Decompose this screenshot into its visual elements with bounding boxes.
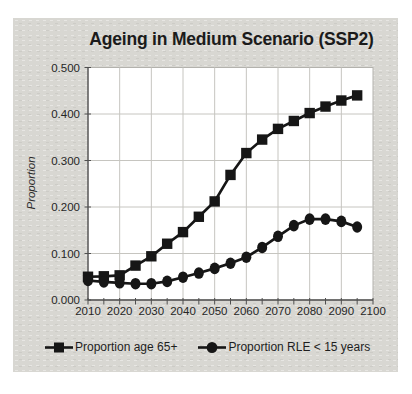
data-point-square — [146, 251, 156, 261]
y-tick-label: 0.200 — [51, 201, 80, 213]
x-tick-label: 2010 — [75, 305, 101, 317]
data-point-circle — [99, 276, 109, 288]
data-point-circle — [336, 216, 346, 228]
plot-area: 2010202020302040205020602070208020902100… — [0, 0, 412, 394]
x-tick-label: 2060 — [234, 305, 260, 317]
x-tick-label: 2040 — [170, 305, 196, 317]
data-point-square — [241, 148, 251, 158]
data-point-circle — [115, 277, 125, 289]
data-point-circle — [83, 275, 93, 287]
legend-item-rle: Proportion RLE < 15 years — [198, 340, 370, 354]
data-point-circle — [289, 220, 299, 232]
data-point-square — [209, 196, 219, 206]
data-point-square — [257, 134, 267, 144]
figure: Ageing in Medium Scenario (SSP2) Proport… — [0, 0, 412, 394]
data-point-circle — [305, 213, 315, 225]
x-tick-label: 2050 — [202, 305, 228, 317]
x-tick-label: 2100 — [360, 305, 386, 317]
data-point-square — [273, 124, 283, 134]
square-marker-icon — [45, 341, 73, 354]
y-tick-label: 0.100 — [51, 248, 80, 260]
data-point-square — [304, 108, 314, 118]
x-tick-label: 2090 — [329, 305, 355, 317]
data-point-circle — [178, 271, 188, 283]
data-point-square — [352, 90, 362, 100]
y-tick-label: 0.300 — [51, 155, 80, 167]
data-point-circle — [226, 257, 236, 269]
data-point-square — [130, 260, 140, 270]
data-point-square — [178, 227, 188, 237]
data-point-circle — [257, 242, 267, 254]
data-point-circle — [241, 251, 251, 263]
x-tick-label: 2080 — [297, 305, 323, 317]
x-tick-label: 2030 — [139, 305, 165, 317]
x-tick-label: 2020 — [107, 305, 133, 317]
data-point-circle — [146, 278, 156, 290]
data-point-circle — [321, 213, 331, 225]
data-point-square — [336, 95, 346, 105]
y-tick-label: 0.400 — [51, 108, 80, 120]
data-point-square — [289, 116, 299, 126]
legend-label-rle: Proportion RLE < 15 years — [228, 340, 370, 354]
data-point-square — [162, 239, 172, 249]
data-point-circle — [131, 278, 141, 290]
x-tick-label: 2070 — [265, 305, 291, 317]
data-point-circle — [210, 263, 220, 275]
circle-marker-icon — [198, 341, 226, 354]
y-tick-label: 0.000 — [51, 294, 80, 306]
legend-label-age65: Proportion age 65+ — [75, 340, 177, 354]
data-point-circle — [194, 267, 204, 279]
data-point-circle — [273, 230, 283, 242]
data-point-circle — [162, 276, 172, 288]
legend-item-age65: Proportion age 65+ — [45, 340, 177, 354]
data-point-square — [225, 170, 235, 180]
data-point-circle — [352, 221, 362, 233]
data-point-square — [194, 212, 204, 222]
y-tick-label: 0.500 — [51, 62, 80, 74]
data-point-square — [320, 101, 330, 111]
legend: Proportion age 65+ Proportion RLE < 15 y… — [45, 340, 370, 354]
